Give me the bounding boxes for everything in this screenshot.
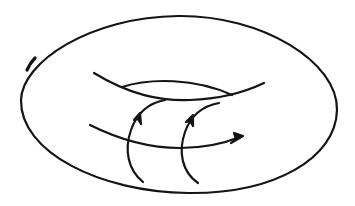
outer-boundary-curve: [21, 16, 337, 193]
longitude-curve: [90, 125, 240, 148]
longitude-arrowhead-icon: [231, 133, 243, 143]
outline-mark: [27, 58, 35, 70]
meridian-2-curve: [182, 103, 219, 183]
hole-upper-curve: [94, 73, 264, 100]
torus-svg: [0, 0, 355, 206]
torus-diagram: [0, 0, 355, 206]
